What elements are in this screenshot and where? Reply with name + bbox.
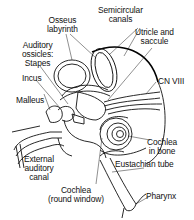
label-auditory-ossicles: Auditory ossicles: Stapes bbox=[22, 41, 53, 68]
label-line: canal bbox=[24, 173, 54, 182]
label-line: in bone bbox=[147, 147, 177, 156]
label-cochlea-in-bone: Cochlea in bone bbox=[147, 138, 177, 156]
semicircular-canal-superior bbox=[87, 46, 122, 95]
label-line: Incus bbox=[22, 74, 42, 83]
label-line: CN VIII bbox=[158, 77, 184, 86]
leader-lines bbox=[36, 28, 156, 204]
label-malleus: Malleus bbox=[16, 96, 44, 105]
label-line: (round window) bbox=[48, 195, 104, 204]
label-line: saccule bbox=[135, 37, 174, 46]
label-line: Malleus bbox=[16, 96, 44, 105]
label-line: Pharynx bbox=[146, 192, 176, 201]
label-pharynx: Pharynx bbox=[146, 192, 176, 201]
vestibule bbox=[76, 92, 106, 120]
semicircular-canal-posterior bbox=[54, 60, 90, 92]
label-incus: Incus bbox=[22, 74, 42, 83]
label-eustachian-tube: Eustachian tube bbox=[115, 160, 174, 169]
label-line: Stapes bbox=[22, 59, 53, 68]
label-osseus-labyrinth: Osseus labyrinth bbox=[47, 16, 78, 34]
label-semicircular-canals: Semicircular canals bbox=[98, 6, 143, 24]
label-line: labyrinth bbox=[47, 25, 78, 34]
label-external-auditory-canal: External auditory canal bbox=[24, 155, 54, 182]
label-line: canals bbox=[98, 15, 143, 24]
label-utricle-saccule: Utricle and saccule bbox=[135, 28, 174, 46]
label-cn-viii: CN VIII bbox=[158, 77, 184, 86]
label-cochlea-round-window: Cochlea (round window) bbox=[48, 186, 104, 204]
cochlea-spiral bbox=[100, 117, 132, 151]
label-line: Eustachian tube bbox=[115, 160, 174, 169]
